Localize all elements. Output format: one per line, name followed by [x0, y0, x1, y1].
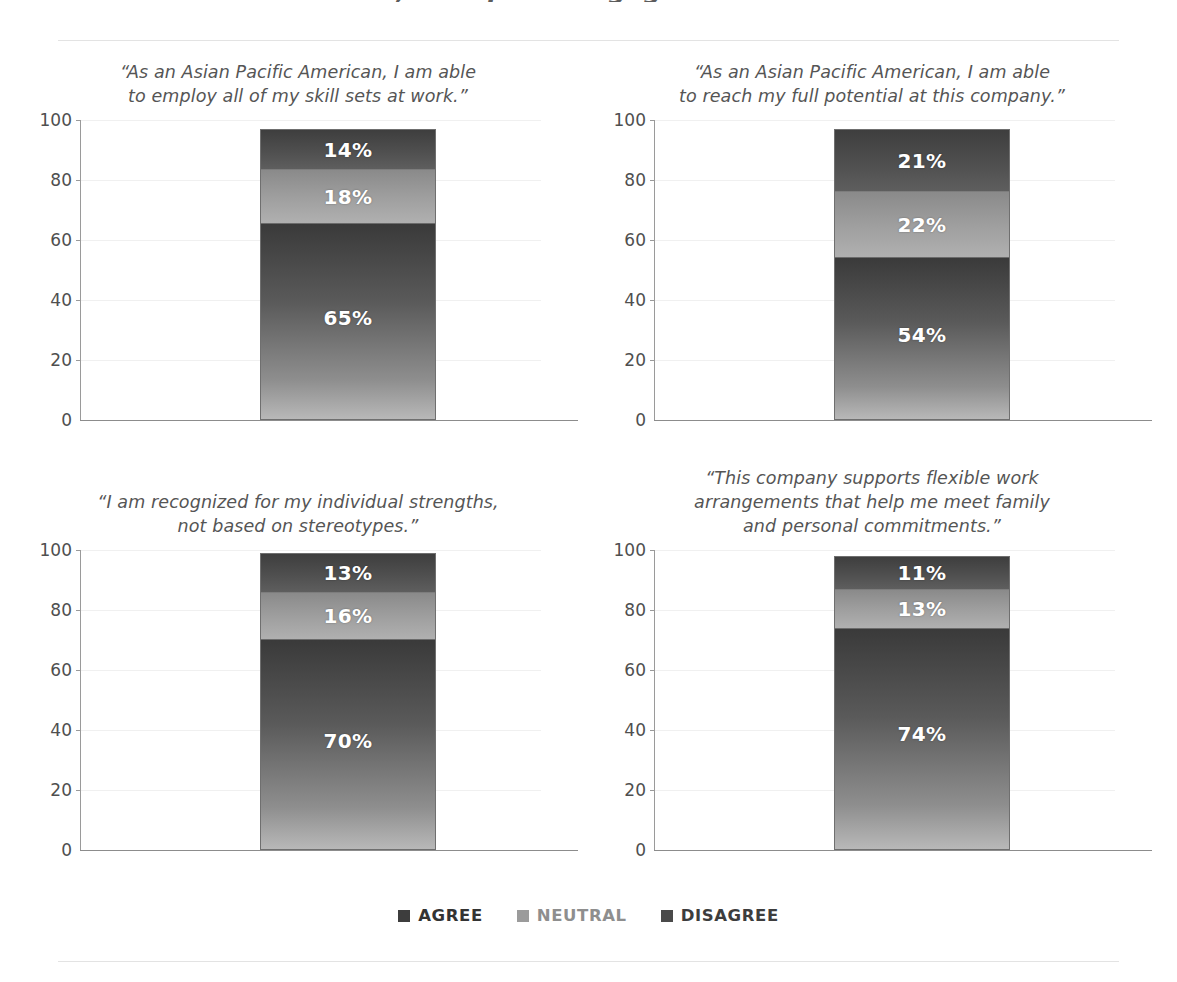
legend-item-neutral[interactable]: NEUTRAL — [517, 906, 627, 925]
y-tick-label-40: 40 — [50, 720, 72, 740]
panel-title-line2: to reach my full potential at this compa… — [592, 84, 1152, 108]
segment-value-agree: 74% — [898, 722, 947, 746]
chart-legend: AGREE NEUTRAL DISAGREE — [0, 906, 1177, 925]
bar-segment-disagree[interactable]: 13% — [261, 554, 435, 593]
bar-segment-neutral[interactable]: 22% — [835, 192, 1009, 258]
legend-label: DISAGREE — [681, 906, 779, 925]
y-axis-line — [654, 120, 655, 420]
y-tick-label-0: 0 — [61, 410, 72, 430]
y-axis-labels: 100 80 60 40 20 0 — [592, 550, 654, 870]
y-axis-line — [654, 550, 655, 850]
plot-area: 100 80 60 40 20 0 — [18, 120, 578, 440]
axis-box: 14% 18% 65% — [80, 120, 578, 440]
top-divider — [58, 40, 1119, 41]
panel-title: “I am recognized for my individual stren… — [18, 490, 578, 538]
y-axis-labels: 100 80 60 40 20 0 — [592, 120, 654, 440]
axis-box: 13% 16% 70% — [80, 550, 578, 870]
panel-title-line2: arrangements that help me meet family — [592, 490, 1152, 514]
panel-individual-strengths: “I am recognized for my individual stren… — [18, 474, 578, 892]
bar-segment-disagree[interactable]: 14% — [261, 130, 435, 170]
segment-value-disagree: 13% — [324, 561, 373, 585]
panel-title: “As an Asian Pacific American, I am able… — [18, 60, 578, 108]
y-tick-label-60: 60 — [50, 660, 72, 680]
axis-box: 21% 22% 54% — [654, 120, 1152, 440]
segment-value-neutral: 18% — [324, 185, 373, 209]
y-tick-label-80: 80 — [50, 600, 72, 620]
y-tick-label-100: 100 — [40, 540, 72, 560]
y-tick-label-20: 20 — [624, 350, 646, 370]
gridline — [81, 120, 541, 121]
segment-value-agree: 70% — [324, 729, 373, 753]
y-tick-label-60: 60 — [50, 230, 72, 250]
y-tick-label-40: 40 — [624, 720, 646, 740]
y-tick-label-60: 60 — [624, 660, 646, 680]
gridline — [655, 120, 1115, 121]
bar-segment-neutral[interactable]: 18% — [261, 170, 435, 224]
y-tick-label-80: 80 — [624, 600, 646, 620]
y-tick-label-20: 20 — [50, 350, 72, 370]
panel-full-potential: “As an Asian Pacific American, I am able… — [592, 44, 1152, 462]
x-axis-line — [80, 420, 578, 421]
panel-title-line1: “I am recognized for my individual stren… — [18, 490, 578, 514]
legend-label: AGREE — [418, 906, 483, 925]
y-tick-label-40: 40 — [624, 290, 646, 310]
segment-value-disagree: 14% — [324, 138, 373, 162]
plot-area: 100 80 60 40 20 0 — [592, 550, 1152, 870]
bar-segment-disagree[interactable]: 21% — [835, 130, 1009, 192]
y-tick-label-0: 0 — [635, 410, 646, 430]
bar-segment-disagree[interactable]: 11% — [835, 557, 1009, 590]
bar-segment-agree[interactable]: 74% — [835, 629, 1009, 849]
stacked-bar[interactable]: 11% 13% 74% — [834, 556, 1010, 850]
y-axis-labels: 100 80 60 40 20 0 — [18, 120, 80, 440]
legend-swatch-icon — [661, 910, 673, 922]
stacked-bar[interactable]: 14% 18% 65% — [260, 129, 436, 420]
segment-value-disagree: 11% — [898, 561, 947, 585]
y-tick-label-20: 20 — [50, 780, 72, 800]
stacked-bar[interactable]: 13% 16% 70% — [260, 553, 436, 850]
panel-title-line2: to employ all of my skill sets at work.” — [18, 84, 578, 108]
segment-value-disagree: 21% — [898, 149, 947, 173]
y-tick-label-20: 20 — [624, 780, 646, 800]
y-tick-label-80: 80 — [50, 170, 72, 190]
gridline — [81, 550, 541, 551]
axis-box: 11% 13% 74% — [654, 550, 1152, 870]
y-tick-label-100: 100 — [40, 110, 72, 130]
segment-value-neutral: 22% — [898, 213, 947, 237]
segment-value-agree: 54% — [898, 323, 947, 347]
stacked-bar[interactable]: 21% 22% 54% — [834, 129, 1010, 420]
y-tick-label-60: 60 — [624, 230, 646, 250]
legend-swatch-icon — [398, 910, 410, 922]
bar-segment-neutral[interactable]: 13% — [835, 590, 1009, 629]
x-axis-line — [80, 850, 578, 851]
panel-title-line3: and personal commitments.” — [592, 514, 1152, 538]
panel-title: “As an Asian Pacific American, I am able… — [592, 60, 1152, 108]
bar-segment-agree[interactable]: 54% — [835, 258, 1009, 419]
bar-segment-neutral[interactable]: 16% — [261, 593, 435, 641]
y-tick-label-0: 0 — [635, 840, 646, 860]
y-tick-label-100: 100 — [614, 110, 646, 130]
segment-value-agree: 65% — [324, 306, 373, 330]
legend-item-agree[interactable]: AGREE — [398, 906, 483, 925]
legend-label: NEUTRAL — [537, 906, 627, 925]
panel-skill-sets: “As an Asian Pacific American, I am able… — [18, 44, 578, 462]
panel-title-line1: “As an Asian Pacific American, I am able — [18, 60, 578, 84]
legend-item-disagree[interactable]: DISAGREE — [661, 906, 779, 925]
y-tick-label-40: 40 — [50, 290, 72, 310]
gridline — [655, 550, 1115, 551]
bar-segment-agree[interactable]: 65% — [261, 224, 435, 419]
y-tick-label-100: 100 — [614, 540, 646, 560]
segment-value-neutral: 13% — [898, 597, 947, 621]
panel-title: “This company supports flexible work arr… — [592, 466, 1152, 538]
chart-page: Asian Pacific Americans, Workplace Engag… — [0, 0, 1177, 982]
panel-title-line1: “This company supports flexible work — [592, 466, 1152, 490]
y-axis-line — [80, 120, 81, 420]
clipped-document-heading: Asian Pacific Americans, Workplace Engag… — [58, 0, 958, 2]
plot-area: 100 80 60 40 20 0 — [18, 550, 578, 870]
y-tick-label-0: 0 — [61, 840, 72, 860]
segment-value-neutral: 16% — [324, 604, 373, 628]
bar-segment-agree[interactable]: 70% — [261, 640, 435, 849]
bottom-divider — [58, 961, 1119, 962]
x-axis-line — [654, 420, 1152, 421]
panel-grid: “As an Asian Pacific American, I am able… — [0, 44, 1177, 904]
panel-flexible-work: “This company supports flexible work arr… — [592, 474, 1152, 892]
